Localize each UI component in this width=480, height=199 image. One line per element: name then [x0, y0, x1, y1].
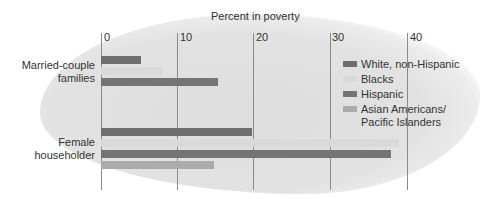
bar-female-asian [101, 161, 214, 169]
legend-swatch [343, 76, 357, 82]
legend-label-line: Pacific Islanders [361, 116, 446, 129]
legend-item-hispanic: Hispanic [343, 88, 459, 101]
tick-label: 0 [104, 31, 110, 43]
tick-label: 30 [332, 31, 344, 43]
legend-label: White, non-Hispanic [361, 58, 459, 71]
bar-married-hispanic [101, 78, 218, 86]
bar-married-blacks [101, 67, 163, 75]
legend-label: Blacks [361, 73, 393, 86]
legend-swatch [343, 61, 357, 67]
bar-female-white [101, 128, 252, 136]
bar-female-hispanic [101, 150, 391, 158]
tick-label: 10 [180, 31, 192, 43]
legend-swatch [343, 91, 357, 97]
category-label-line: householder [0, 149, 95, 162]
gridline-40-bottom [407, 132, 408, 190]
legend-item-asian: Asian Americans/ Pacific Islanders [343, 103, 459, 129]
category-label-line: Married-couple [0, 59, 95, 72]
legend-swatch [343, 106, 357, 112]
bar-married-white [101, 56, 141, 64]
legend-label: Asian Americans/ Pacific Islanders [361, 103, 446, 129]
bar-female-blacks [101, 139, 399, 147]
legend-label-line: Asian Americans/ [361, 103, 446, 116]
tick-label: 20 [256, 31, 268, 43]
category-label-line: families [0, 72, 95, 85]
legend-label: Hispanic [361, 88, 403, 101]
legend: White, non-Hispanic Blacks Hispanic Asia… [343, 58, 459, 131]
gridline-20 [253, 33, 254, 190]
category-label-married: Married-couple families [0, 59, 95, 85]
gridline-30 [330, 33, 331, 190]
category-label-female: Female householder [0, 136, 95, 162]
legend-item-white: White, non-Hispanic [343, 58, 459, 71]
legend-item-blacks: Blacks [343, 73, 459, 86]
chart-title: Percent in poverty [211, 10, 300, 22]
category-label-line: Female [0, 136, 95, 149]
tick-label: 40 [410, 31, 422, 43]
